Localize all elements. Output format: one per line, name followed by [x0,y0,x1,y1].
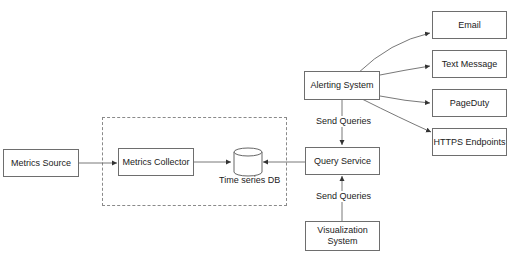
node-alerting-system[interactable]: Alerting System [304,71,380,100]
node-label: Metrics Collector [122,157,189,168]
tsdb-label: Time series DB [219,175,280,186]
node-visualization-system[interactable]: Visualization System [305,221,380,251]
node-metrics-collector[interactable]: Metrics Collector [118,148,194,176]
edge-label-alert-send-queries: Send Queries [315,116,372,127]
edge-label-vis-send-queries: Send Queries [315,191,372,202]
node-label: Email [458,20,481,31]
node-label: Text Message [442,59,498,70]
node-label: Query Service [314,156,371,167]
node-metrics-source[interactable]: Metrics Source [3,149,79,177]
node-https-endpoints[interactable]: HTTPS Endpoints [432,128,507,156]
node-pagerduty[interactable]: PageDuty [432,89,507,117]
edge-alerting-to-https [362,99,431,132]
node-label-line2: System [327,236,357,247]
node-label: HTTPS Endpoints [433,137,505,148]
node-label: Metrics Source [11,158,71,169]
node-label: Alerting System [310,80,373,91]
edge-alerting-to-email [358,33,430,73]
node-query-service[interactable]: Query Service [305,147,380,175]
node-text-message[interactable]: Text Message [432,50,507,78]
node-label-line1: Visualization [317,225,367,236]
edge-alerting-to-pagerduty [380,96,430,103]
node-email[interactable]: Email [432,11,507,39]
edge-alerting-to-sms [380,66,430,75]
node-label: PageDuty [450,98,490,109]
database-cylinder-icon [234,148,262,176]
